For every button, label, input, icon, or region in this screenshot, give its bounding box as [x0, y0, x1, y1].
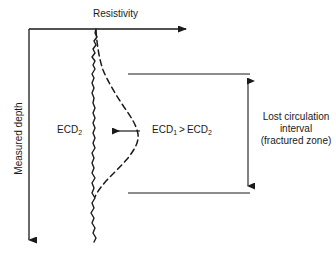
ecd2-text: ECD [57, 124, 78, 135]
ecd-comparison-label: ECD1>ECD2 [152, 124, 212, 136]
interval-label-line-1: Lost circulation [258, 111, 334, 123]
ecd1-text: ECD [152, 124, 173, 135]
ecd2-compare-text: ECD [187, 124, 208, 135]
interval-label-line-3: (fractured zone) [258, 135, 334, 147]
resistivity-axis-label: Resistivity [93, 8, 138, 19]
measured-depth-axis-label: Measured depth [13, 96, 24, 182]
comparison-operator: > [177, 124, 187, 135]
ecd2-subscript: 2 [78, 129, 82, 136]
resistivity-depth-diagram: Resistivity Measured depth ECD2 ECD1>ECD… [0, 0, 336, 261]
ecd2-curve-label: ECD2 [57, 124, 82, 136]
interval-label-line-2: interval [258, 123, 334, 135]
ecd2-compare-subscript: 2 [208, 129, 212, 136]
lost-circulation-interval-label: Lost circulation interval (fractured zon… [258, 111, 334, 147]
ecd1-pressure-curve [95, 30, 138, 197]
ecd1-subscript: 1 [173, 129, 177, 136]
ecd2-log-curve [91, 29, 97, 242]
